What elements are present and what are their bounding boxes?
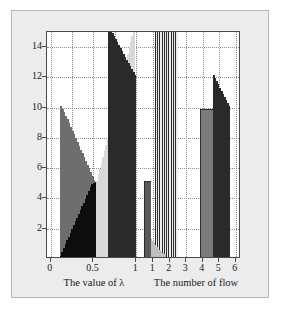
y-axis-tick-mark: [42, 228, 46, 229]
bar: [134, 75, 136, 257]
x-axis-tick-labels-flow: 123456: [46, 263, 240, 275]
y-axis-tick-mark: [42, 46, 46, 47]
y-axis-tick-label: 12: [32, 71, 42, 81]
y-axis-tick-mark: [42, 76, 46, 77]
y-axis-tick-mark: [42, 197, 46, 198]
plot-area: [46, 31, 240, 258]
y-axis-tick-labels: 2468101214: [18, 31, 42, 258]
x-axis-tick-label-flow: 1: [150, 263, 155, 273]
gridline-vertical: [51, 32, 52, 257]
gridline-vertical: [236, 32, 237, 257]
bar: [144, 181, 151, 257]
y-axis-tick-mark: [42, 107, 46, 108]
gridline-vertical: [186, 32, 187, 257]
bar: [163, 254, 165, 257]
x-axis-tick-label-flow: 4: [199, 263, 204, 273]
bar: [175, 31, 178, 257]
x-axis-tick-label-flow: 6: [232, 263, 237, 273]
bar: [200, 109, 213, 257]
x-axis-tick-label-flow: 2: [166, 263, 171, 273]
y-axis-tick-label: 10: [32, 102, 42, 112]
gridline-horizontal: [47, 77, 239, 78]
bar: [228, 106, 230, 257]
x-axis-tick-label-flow: 3: [183, 263, 188, 273]
x-axis-tick-label-flow: 5: [216, 263, 221, 273]
y-axis-tick-mark: [42, 137, 46, 138]
gridline-vertical: [136, 32, 137, 257]
gridline-horizontal: [47, 47, 239, 48]
y-axis-tick-label: 14: [32, 41, 42, 51]
x-axis-caption-lambda: The value of λ: [64, 277, 125, 289]
x-axis-caption-flow: The number of flow: [154, 277, 238, 289]
y-axis-tick-mark: [42, 167, 46, 168]
figure-root: 2468101214 00.51 123456 The value of λ T…: [0, 0, 281, 309]
